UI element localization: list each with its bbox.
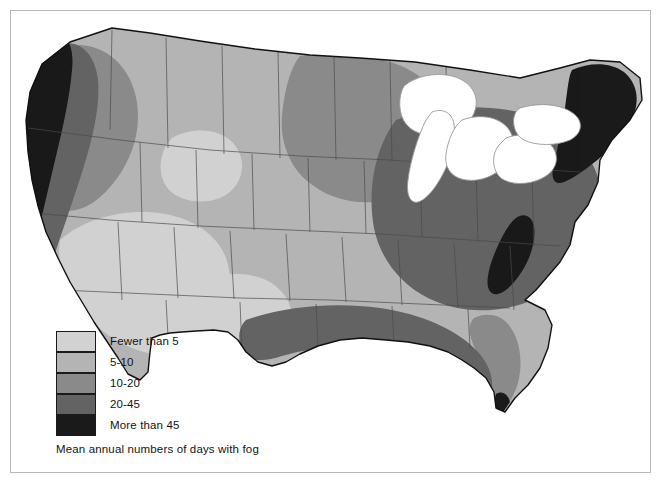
legend-row: 10-20: [56, 373, 316, 394]
map-legend: Fewer than 5 5-10 10-20 20-45 More than …: [56, 331, 316, 436]
legend-swatch-fewer-than-5: [56, 331, 96, 352]
band-fewer-than-5-north: [161, 131, 243, 202]
legend-row: More than 45: [56, 415, 316, 436]
figure-caption: Mean annual numbers of days with fog: [56, 443, 259, 455]
legend-label-fewer-than-5: Fewer than 5: [110, 331, 179, 352]
figure-page: Fewer than 5 5-10 10-20 20-45 More than …: [0, 0, 663, 485]
legend-label-more-than-45: More than 45: [110, 415, 180, 436]
legend-swatch-5-10: [56, 352, 96, 373]
legend-label-5-10: 5-10: [110, 352, 134, 373]
legend-row: 20-45: [56, 394, 316, 415]
legend-row: 5-10: [56, 352, 316, 373]
legend-label-20-45: 20-45: [110, 394, 140, 415]
legend-row: Fewer than 5: [56, 331, 316, 352]
legend-swatch-10-20: [56, 373, 96, 394]
legend-swatch-20-45: [56, 394, 96, 415]
legend-swatch-more-than-45: [56, 415, 96, 436]
legend-label-10-20: 10-20: [110, 373, 140, 394]
